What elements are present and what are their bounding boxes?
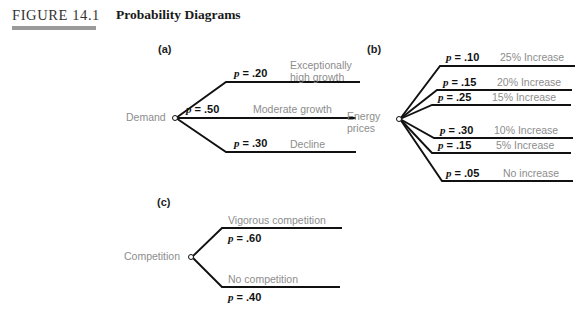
panel-c-branch-lines: [0, 0, 579, 310]
panel-c-root-node: [188, 254, 194, 260]
panel-c-root-label: Competition: [124, 251, 180, 263]
panel-c-outcome-2: No competition: [228, 274, 298, 286]
figure-canvas: FIGURE 14.1 Probability Diagrams (a) Dem…: [0, 0, 579, 310]
panel-c-outcome-1: Vigorous competition: [228, 215, 326, 227]
panel-c-probability-1: p = .60: [228, 232, 261, 244]
panel-c-probability-2: p = .40: [228, 291, 261, 303]
